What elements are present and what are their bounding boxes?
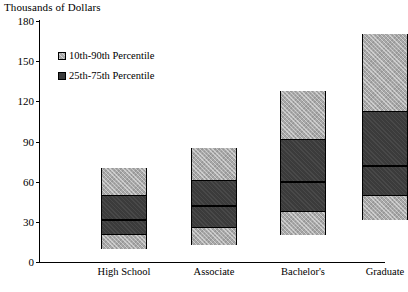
- segment-25-10: [192, 227, 236, 244]
- y-tick-label-90: 90: [23, 136, 34, 148]
- x-axis-line: [39, 262, 385, 263]
- y-tick-label-30: 30: [23, 216, 34, 228]
- legend-item-25-75: 25th-75th Percentile: [58, 70, 154, 81]
- legend-swatch-light-icon: [58, 52, 66, 60]
- divider-75: [281, 139, 325, 140]
- divider-75: [102, 195, 146, 196]
- y-tick-label-150: 150: [18, 55, 35, 67]
- segment-90-75: [102, 168, 146, 195]
- divider-75: [192, 180, 236, 181]
- y-tick-label-180: 180: [18, 15, 35, 27]
- divider-25: [281, 211, 325, 212]
- median-line: [192, 205, 236, 207]
- bar-high-school: [101, 168, 147, 248]
- chart-axis-title: Thousands of Dollars: [4, 1, 101, 13]
- median-line: [281, 181, 325, 183]
- bar-bachelor-s: [280, 91, 326, 236]
- segment-90-75: [192, 148, 236, 180]
- divider-25: [192, 227, 236, 228]
- segment-75-25: [281, 139, 325, 211]
- segment-75-25: [192, 180, 236, 227]
- chart-legend: 10th-90th Percentile 25th-75th Percentil…: [58, 50, 154, 90]
- y-tick-label-120: 120: [18, 95, 35, 107]
- legend-label-10-90: 10th-90th Percentile: [69, 50, 154, 61]
- divider-75: [363, 111, 407, 112]
- median-line: [363, 165, 407, 167]
- legend-swatch-dark-icon: [58, 72, 66, 80]
- x-axis-label-0: High School: [98, 266, 151, 277]
- segment-90-75: [281, 91, 325, 139]
- segment-25-10: [363, 195, 407, 220]
- legend-item-10-90: 10th-90th Percentile: [58, 50, 154, 61]
- x-axis-label-1: Associate: [194, 266, 235, 277]
- divider-25: [363, 195, 407, 196]
- segment-75-25: [102, 195, 146, 234]
- x-axis-label-2: Bachelor's: [281, 266, 325, 277]
- segment-90-75: [363, 34, 407, 110]
- divider-25: [102, 234, 146, 235]
- bar-graduate: [362, 34, 408, 220]
- segment-75-25: [363, 111, 407, 195]
- segment-25-10: [281, 211, 325, 235]
- legend-label-25-75: 25th-75th Percentile: [69, 70, 154, 81]
- segment-25-10: [102, 234, 146, 249]
- y-tick-label-0: 0: [29, 256, 35, 268]
- x-axis-label-3: Graduate: [366, 266, 404, 277]
- y-tick-label-60: 60: [23, 176, 34, 188]
- median-line: [102, 219, 146, 221]
- bar-associate: [191, 148, 237, 244]
